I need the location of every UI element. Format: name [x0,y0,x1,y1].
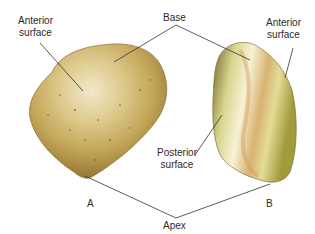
label-text: Anterior [18,15,53,27]
bone-view-a [30,44,167,178]
label-posterior-surface: Posterior surface [157,147,197,171]
bone-view-b [213,42,297,182]
label-anterior-surface-b: Anterior surface [266,17,301,41]
label-base: Base [163,12,186,24]
label-anterior-surface-a: Anterior surface [18,15,53,39]
label-text: surface [18,27,53,39]
label-apex: Apex [163,220,186,232]
label-text: surface [157,159,197,171]
label-view-b: B [266,198,273,210]
label-text: surface [266,29,301,41]
figure-canvas: Anterior surface Base Anterior surface P… [0,0,315,234]
label-text: Posterior [157,147,197,159]
label-view-a: A [87,198,94,210]
label-text: Anterior [266,17,301,29]
